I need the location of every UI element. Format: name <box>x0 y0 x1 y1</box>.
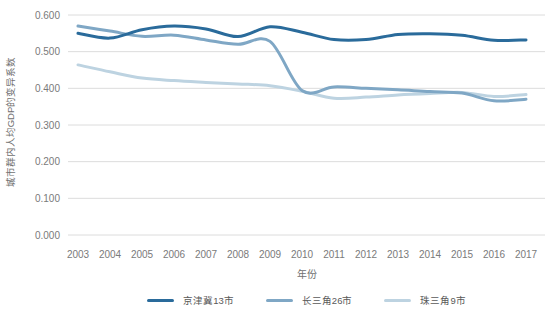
legend-swatch <box>266 299 293 302</box>
x-tick-label: 2007 <box>195 249 218 260</box>
legend-item-0: 京津冀13市 <box>147 293 234 307</box>
x-tick-label: 2006 <box>163 249 186 260</box>
y-tick-label: 0.500 <box>35 46 60 57</box>
legend-label: 珠三角9市 <box>420 293 465 307</box>
x-tick-label: 2015 <box>451 249 474 260</box>
series-line-1 <box>78 26 526 101</box>
x-tick-label: 2016 <box>483 249 506 260</box>
x-tick-label: 2014 <box>419 249 442 260</box>
legend-label: 长三角26市 <box>302 293 353 307</box>
y-tick-label: 0.000 <box>35 230 60 241</box>
line-chart-figure: 城市群内人均GDP的变异系数 0.0000.1000.2000.3000.400… <box>0 0 558 325</box>
legend-swatch <box>384 299 411 302</box>
x-axis-title: 年份 <box>68 266 545 281</box>
x-tick-label: 2017 <box>515 249 538 260</box>
legend-swatch <box>147 299 174 302</box>
x-tick-label: 2008 <box>227 249 250 260</box>
x-tick-label: 2009 <box>259 249 282 260</box>
y-tick-label: 0.600 <box>35 10 60 21</box>
chart-legend: 京津冀13市长三角26市珠三角9市 <box>68 293 545 307</box>
x-tick-label: 2003 <box>67 249 90 260</box>
legend-item-2: 珠三角9市 <box>384 293 465 307</box>
y-tick-label: 0.100 <box>35 193 60 204</box>
x-tick-label: 2012 <box>355 249 378 260</box>
y-tick-label: 0.200 <box>35 156 60 167</box>
y-tick-label: 0.400 <box>35 83 60 94</box>
x-tick-label: 2005 <box>131 249 154 260</box>
x-tick-label: 2013 <box>387 249 410 260</box>
y-tick-label: 0.300 <box>35 120 60 131</box>
legend-label: 京津冀13市 <box>183 293 234 307</box>
x-tick-label: 2010 <box>291 249 314 260</box>
series-line-0 <box>78 26 526 41</box>
x-tick-label: 2004 <box>99 249 122 260</box>
x-tick-label: 2011 <box>323 249 345 260</box>
legend-item-1: 长三角26市 <box>266 293 353 307</box>
